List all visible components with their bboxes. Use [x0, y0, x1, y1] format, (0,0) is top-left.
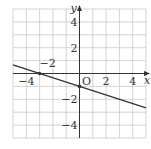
origin-label: O: [82, 75, 91, 88]
point-annotation: −2: [39, 57, 55, 70]
x-axis-label: x: [144, 74, 151, 87]
marked-point: [78, 85, 82, 89]
x-tick-label: −4: [18, 75, 34, 88]
coordinate-plane: −42442−2−4−2Oxy: [0, 0, 151, 149]
x-tick-label: 4: [129, 75, 136, 88]
y-axis-label: y: [69, 2, 77, 15]
marked-point: [38, 72, 42, 76]
y-tick-label: −4: [61, 119, 77, 132]
y-tick-label: 4: [71, 16, 78, 29]
x-tick-label: 2: [103, 75, 110, 88]
y-tick-label: −2: [61, 93, 77, 106]
y-tick-label: 2: [71, 42, 78, 55]
y-axis-arrow-icon: [77, 5, 82, 11]
